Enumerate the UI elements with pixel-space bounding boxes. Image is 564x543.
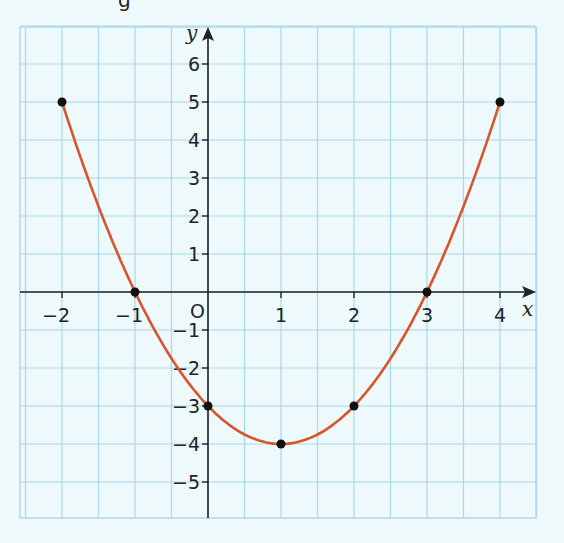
y-tick-label: 3 (188, 167, 200, 189)
parabola-chart: −2−11234654321−1−2−3−4−5 x y O (0, 0, 564, 543)
origin-label: O (190, 300, 205, 322)
y-tick-label: −5 (172, 471, 200, 493)
x-tick-label: −2 (42, 304, 70, 326)
y-tick-label: 5 (188, 91, 200, 113)
y-axis-label: y (185, 21, 198, 45)
y-tick-label: 2 (188, 205, 200, 227)
data-point (423, 288, 432, 297)
x-tick-label: 3 (421, 304, 433, 326)
x-tick-label: 2 (348, 304, 360, 326)
data-point (131, 288, 140, 297)
y-tick-label: 4 (188, 129, 200, 151)
data-point (277, 440, 286, 449)
data-point (496, 98, 505, 107)
x-tick-label: 1 (275, 304, 287, 326)
y-tick-label: 1 (188, 243, 200, 265)
x-tick-label: −1 (115, 304, 143, 326)
data-point (204, 402, 213, 411)
data-point (58, 98, 67, 107)
x-axis-label: x (522, 297, 533, 321)
y-tick-label: −4 (172, 433, 200, 455)
y-tick-label: 6 (188, 53, 200, 75)
y-tick-label: −1 (172, 319, 200, 341)
x-tick-label: 4 (494, 304, 506, 326)
data-point (350, 402, 359, 411)
y-tick-label: −2 (172, 357, 200, 379)
y-tick-label: −3 (172, 395, 200, 417)
